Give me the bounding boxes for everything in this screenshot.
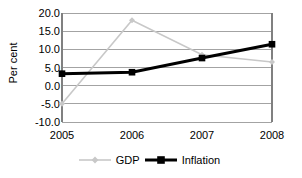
line-chart: Per cent 20.015.010.05.00.0-5.0-10.0 200…: [0, 0, 302, 178]
legend-square-icon: [144, 154, 178, 166]
series-markers: [59, 17, 276, 107]
y-tick-label: -10.0: [35, 117, 60, 128]
plot-area: [62, 13, 272, 122]
y-tick-label: 10.0: [39, 44, 60, 55]
x-tick-label: 2006: [120, 129, 144, 141]
data-point-marker: [199, 55, 206, 62]
x-axis-tick-labels: 2005200620072008: [0, 129, 302, 145]
legend-diamond-icon: [78, 154, 112, 166]
data-point-marker: [129, 69, 136, 76]
x-tick-label: 2008: [260, 129, 284, 141]
y-tick-label: 20.0: [39, 8, 60, 19]
data-point-marker: [269, 59, 275, 65]
y-tick-label: 5.0: [45, 62, 60, 73]
y-tick-label: 15.0: [39, 26, 60, 37]
x-tick-label: 2007: [190, 129, 214, 141]
chart-legend: GDPInflation: [0, 150, 302, 170]
legend-label: Inflation: [178, 154, 225, 166]
legend-item-inflation[interactable]: Inflation: [144, 154, 225, 166]
plot-svg: [62, 13, 272, 122]
gridlines: [62, 13, 272, 122]
data-point-marker: [269, 41, 276, 48]
y-tick-label: -5.0: [41, 98, 60, 109]
data-point-marker: [59, 70, 66, 77]
x-tick-label: 2005: [50, 129, 74, 141]
legend-item-gdp[interactable]: GDP: [78, 154, 144, 166]
series-line-gdp: [62, 20, 272, 104]
legend-label: GDP: [112, 154, 144, 166]
series-lines: [62, 20, 272, 104]
y-tick-label: 0.0: [45, 80, 60, 91]
